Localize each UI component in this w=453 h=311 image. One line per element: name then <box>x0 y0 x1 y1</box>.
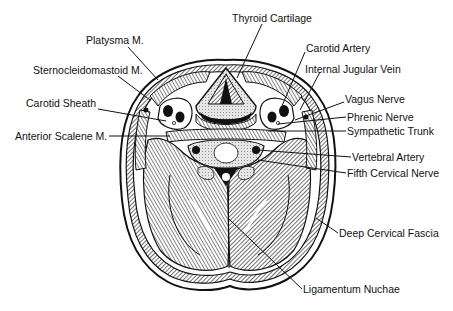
label-deep-cervical-fascia: Deep Cervical Fascia <box>339 227 439 239</box>
label-anterior-scalene: Anterior Scalene M. <box>15 130 107 142</box>
label-sympathetic-trunk: Sympathetic Trunk <box>347 125 434 137</box>
label-ligamentum-nuchae: Ligamentum Nuchae <box>303 283 400 295</box>
label-internal-jugular-vein: Internal Jugular Vein <box>305 63 401 75</box>
label-phrenic-nerve: Phrenic Nerve <box>347 111 414 123</box>
label-carotid-artery: Carotid Artery <box>306 42 370 54</box>
label-platysma: Platysma M. <box>86 34 144 46</box>
carotid-sheath-left <box>158 98 192 129</box>
neck-cross-section-diagram: Thyroid Cartilage Platysma M. Carotid Ar… <box>0 0 453 311</box>
label-carotid-sheath: Carotid Sheath <box>26 97 96 109</box>
label-fifth-cervical-nerve: Fifth Cervical Nerve <box>347 167 439 179</box>
label-vertebral-artery: Vertebral Artery <box>352 151 424 163</box>
label-thyroid-cartilage: Thyroid Cartilage <box>232 12 312 24</box>
vertebral-artery-left <box>192 146 200 154</box>
carotid-sheath-right <box>260 98 294 129</box>
label-sternocleidomastoid: Sternocleidomastoid M. <box>33 64 143 76</box>
label-vagus-nerve: Vagus Nerve <box>345 93 405 105</box>
